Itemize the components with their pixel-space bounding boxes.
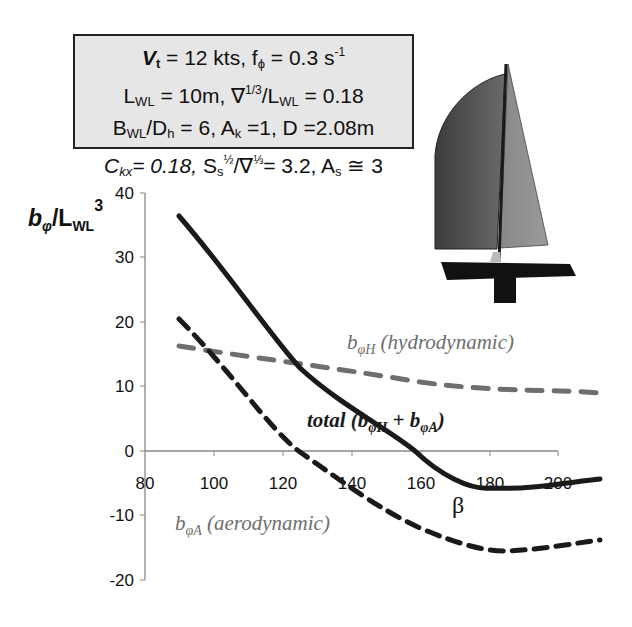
y-axis: 40 30 20 10 0 -10 -20: [109, 184, 145, 590]
svg-text:30: 30: [115, 248, 134, 267]
svg-text:-10: -10: [109, 506, 134, 525]
svg-text:10: 10: [115, 377, 134, 396]
svg-text:80: 80: [136, 474, 155, 493]
aerodynamic-label: bφA (aerodynamic): [175, 511, 330, 538]
svg-text:-20: -20: [109, 571, 134, 590]
y-axis-label: bφ/LWL3: [28, 197, 103, 234]
svg-text:40: 40: [115, 184, 134, 203]
x-axis-label: β: [452, 492, 464, 518]
svg-text:160: 160: [407, 474, 435, 493]
hydrodynamic-label: bφH (hydrodynamic): [347, 330, 514, 357]
svg-text:20: 20: [115, 313, 134, 332]
chart: 40 30 20 10 0 -10 -20 80 100 120 140 160…: [0, 0, 632, 627]
svg-text:100: 100: [200, 474, 228, 493]
sailboat-icon: [435, 64, 576, 303]
total-label: total (bφH + bφA): [307, 408, 445, 435]
svg-text:0: 0: [125, 442, 134, 461]
svg-text:120: 120: [269, 474, 297, 493]
